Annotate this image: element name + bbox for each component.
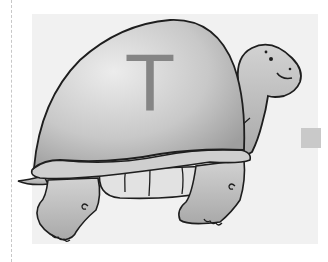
back-leg — [37, 178, 100, 240]
shell-letter: T — [120, 50, 180, 120]
